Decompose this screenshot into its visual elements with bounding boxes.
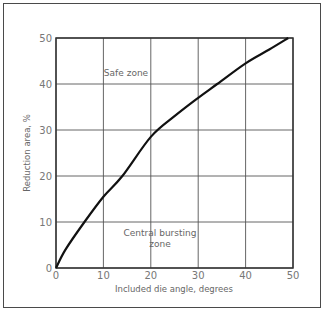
x-tick-label: 0 [53,270,59,281]
bursting-zone-label-1: Central bursting [124,228,197,238]
y-tick-label: 30 [39,125,52,136]
x-tick-label: 50 [287,270,300,281]
x-tick-label: 30 [192,270,205,281]
y-axis-label: Reduction area, % [22,114,32,192]
y-tick-label: 40 [39,79,52,90]
x-tick-label: 40 [239,270,252,281]
bursting-zone-label-2: zone [149,239,171,249]
safe-zone-label: Safe zone [104,68,149,78]
x-tick-labels: 01020304050 [53,270,300,281]
y-tick-labels: 01020304050 [39,33,52,274]
y-tick-label: 0 [46,263,52,274]
y-tick-label: 50 [39,33,52,44]
y-tick-label: 20 [39,171,52,182]
x-tick-label: 10 [97,270,110,281]
y-tick-label: 10 [39,217,52,228]
x-tick-label: 20 [144,270,157,281]
x-axis-label: Included die angle, degrees [115,284,234,294]
chart: 01020304050 01020304050 Safe zone Centra… [0,0,327,317]
